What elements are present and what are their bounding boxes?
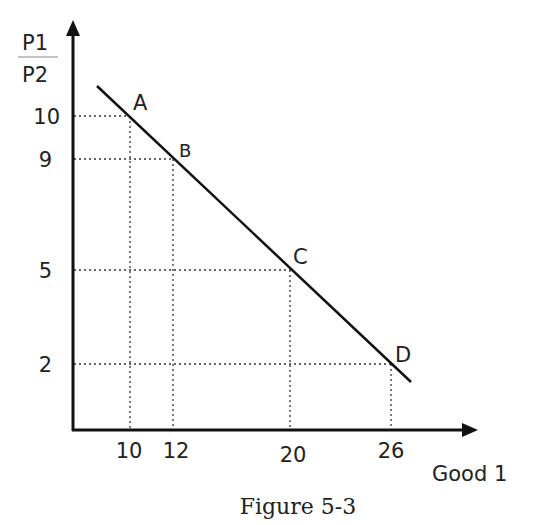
x-tick-12: 12 bbox=[163, 439, 190, 463]
point-label-a: A bbox=[133, 91, 148, 115]
budget-line-chart: P1 P2 10 9 5 2 10 12 20 26 Good 1 A B C … bbox=[0, 0, 546, 525]
y-tick-9: 9 bbox=[39, 148, 52, 172]
point-label-b: B bbox=[179, 140, 191, 161]
point-label-c: C bbox=[293, 245, 308, 269]
x-tick-26: 26 bbox=[378, 439, 405, 463]
budget-line bbox=[97, 86, 411, 382]
y-axis-arrow-icon bbox=[66, 20, 80, 36]
y-tick-2: 2 bbox=[39, 353, 52, 377]
y-label-numerator: P1 bbox=[22, 31, 48, 55]
x-tick-20: 20 bbox=[280, 443, 307, 467]
x-tick-10: 10 bbox=[116, 439, 143, 463]
figure-caption: Figure 5-3 bbox=[240, 494, 357, 519]
y-tick-10: 10 bbox=[33, 105, 60, 129]
x-axis-label: Good 1 bbox=[432, 462, 507, 486]
guide-lines bbox=[74, 116, 391, 430]
y-tick-5: 5 bbox=[39, 259, 52, 283]
point-label-d: D bbox=[395, 343, 411, 367]
y-label-denominator: P2 bbox=[22, 63, 48, 87]
x-axis-arrow-icon bbox=[462, 423, 478, 437]
